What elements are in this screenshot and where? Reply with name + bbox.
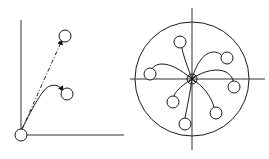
upper-target-node (59, 30, 71, 42)
dashed-arrow-to-upper-target (22, 40, 62, 129)
sat-right-node (228, 81, 240, 93)
sat-bottom-right-node (210, 107, 222, 119)
figure-canvas (0, 0, 269, 159)
lower-target-node (61, 88, 73, 100)
curved-arrow-to-lower-target (22, 85, 63, 129)
left-diagram (15, 20, 124, 141)
curve-to-sat-top-right (192, 52, 222, 79)
sat-top-node (174, 36, 186, 48)
sat-top-right-node (221, 52, 233, 64)
sat-bottom-left-node (167, 96, 179, 108)
diagram-svg (0, 0, 269, 159)
origin-node (15, 129, 27, 141)
right-diagram (130, 8, 265, 150)
curve-to-sat-left (152, 64, 192, 79)
curve-to-sat-bottom (185, 79, 192, 118)
sat-bottom-node (179, 118, 191, 130)
sat-left-node (144, 68, 156, 80)
